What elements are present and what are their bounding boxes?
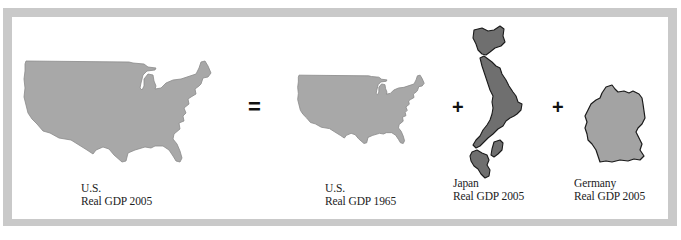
label-metric: Real GDP 2005: [81, 195, 152, 208]
label-germany-2005: Germany Real GDP 2005: [574, 177, 645, 203]
label-metric: Real GDP 1965: [325, 195, 396, 208]
label-metric: Real GDP 2005: [574, 190, 645, 203]
japan-map-icon: [468, 24, 528, 180]
label-japan-2005: Japan Real GDP 2005: [453, 177, 524, 203]
plus-sign: +: [452, 97, 464, 117]
label-country: U.S.: [81, 182, 152, 195]
us-2005-map-icon: [23, 61, 227, 164]
label-country: Japan: [453, 177, 524, 190]
label-country: Germany: [574, 177, 645, 190]
label-metric: Real GDP 2005: [453, 190, 524, 203]
germany-map-icon: [582, 84, 650, 164]
equals-sign: =: [248, 96, 261, 118]
plus-sign: +: [552, 97, 564, 117]
label-us-1965: U.S. Real GDP 1965: [325, 182, 396, 208]
label-us-2005: U.S. Real GDP 2005: [81, 182, 152, 208]
us-1965-map-icon: [297, 75, 435, 145]
label-country: U.S.: [325, 182, 396, 195]
